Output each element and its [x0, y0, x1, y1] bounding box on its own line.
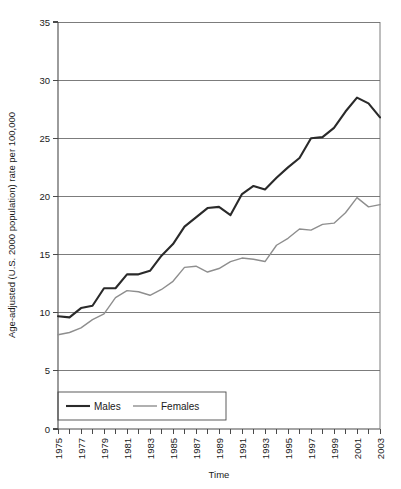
y-tick-label: 0	[45, 424, 50, 435]
y-tick-label: 20	[39, 191, 50, 202]
y-tick-label: 10	[39, 307, 50, 318]
y-tick-label: 5	[45, 365, 50, 376]
y-axis-title: Age-adjusted (U.S. 2000 population) rate…	[6, 112, 17, 338]
y-axis-ticks: 05101520253035	[39, 17, 58, 435]
legend-label-females: Females	[161, 401, 199, 412]
x-tick-label: 2001	[352, 438, 363, 459]
x-tick-label: 1993	[260, 438, 271, 459]
x-tick-label: 1999	[329, 438, 340, 459]
x-tick-label: 1987	[191, 438, 202, 459]
x-tick-label: 1991	[237, 438, 248, 459]
plot-background	[58, 22, 380, 429]
x-axis-ticks: 1975197719791981198319851987198919911993…	[53, 429, 386, 459]
y-tick-label: 15	[39, 249, 50, 260]
x-tick-label: 1985	[168, 438, 179, 459]
x-tick-label: 1979	[99, 438, 110, 459]
x-axis-title: Time	[209, 469, 230, 480]
x-tick-label: 2003	[375, 438, 386, 459]
chart-figure: 05101520253035 1975197719791981198319851…	[0, 0, 401, 489]
y-tick-label: 35	[39, 17, 50, 28]
x-tick-label: 1997	[306, 438, 317, 459]
line-chart: 05101520253035 1975197719791981198319851…	[0, 0, 401, 489]
legend-label-males: Males	[94, 401, 121, 412]
x-tick-label: 1975	[53, 438, 64, 459]
x-tick-label: 1981	[122, 438, 133, 459]
y-tick-label: 25	[39, 133, 50, 144]
y-tick-label: 30	[39, 75, 50, 86]
x-tick-label: 1989	[214, 438, 225, 459]
x-tick-label: 1983	[145, 438, 156, 459]
x-tick-label: 1995	[283, 438, 294, 459]
x-tick-label: 1977	[76, 438, 87, 459]
